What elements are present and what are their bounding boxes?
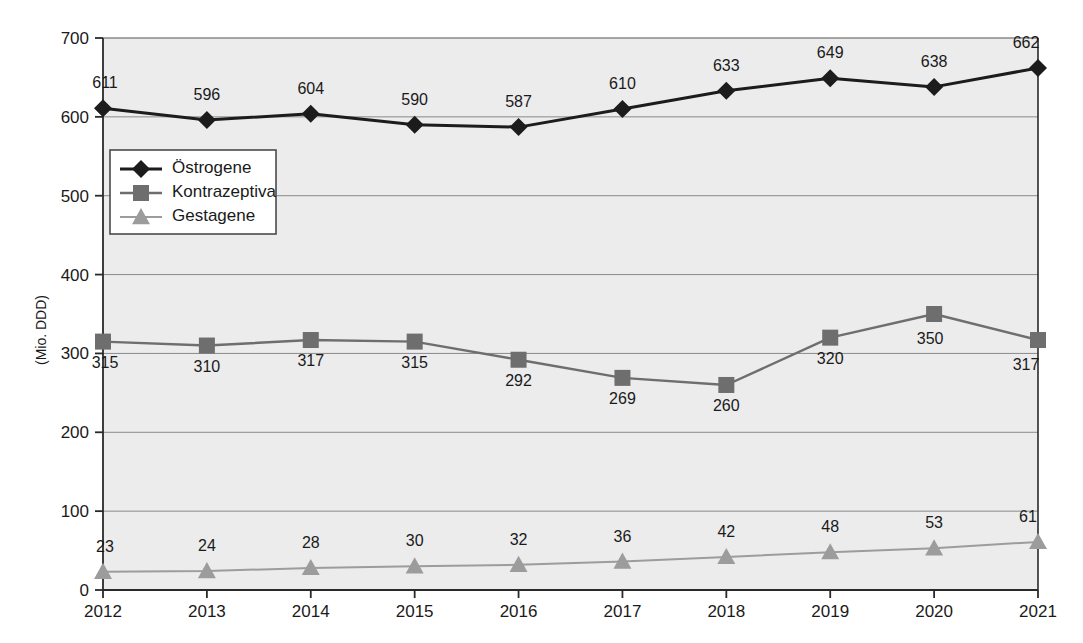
legend-label-2: Gestagene: [172, 206, 255, 225]
y-tick-label-200: 200: [61, 423, 89, 442]
legend-label-0: Östrogene: [172, 158, 251, 177]
data-label-2-3: 30: [406, 532, 424, 549]
marker-square: [1030, 332, 1046, 348]
marker-square: [199, 338, 215, 354]
marker-square: [133, 185, 149, 201]
marker-square: [303, 332, 319, 348]
x-axis: 2012201320142015201620172018201920202021: [84, 590, 1057, 621]
data-label-2-4: 32: [510, 531, 528, 548]
y-tick-label-100: 100: [61, 502, 89, 521]
data-label-1-7: 320: [817, 350, 844, 367]
data-label-0-0: 611: [92, 74, 118, 91]
data-label-0-6: 633: [713, 57, 740, 74]
x-tick-label-2021: 2021: [1019, 602, 1057, 621]
x-tick-label-2017: 2017: [604, 602, 642, 621]
marker-square: [95, 334, 111, 350]
data-label-1-6: 260: [713, 397, 740, 414]
data-label-1-5: 269: [609, 390, 636, 407]
y-axis: 0100200300400500600700: [61, 29, 103, 600]
data-label-1-4: 292: [505, 372, 532, 389]
y-tick-label-600: 600: [61, 108, 89, 127]
data-label-1-2: 317: [297, 352, 324, 369]
data-label-0-5: 610: [609, 75, 636, 92]
x-tick-label-2013: 2013: [188, 602, 226, 621]
data-label-1-0: 315: [92, 354, 119, 371]
plot-background: [103, 38, 1038, 590]
data-label-1-1: 310: [194, 358, 221, 375]
chart-container: 0100200300400500600700201220132014201520…: [0, 0, 1083, 643]
marker-square: [718, 377, 734, 393]
data-label-0-3: 590: [401, 91, 428, 108]
y-axis-title: (Mio. DDD): [33, 295, 49, 365]
data-label-1-3: 315: [401, 354, 428, 371]
x-tick-label-2020: 2020: [915, 602, 953, 621]
data-label-2-1: 24: [198, 537, 216, 554]
x-tick-label-2014: 2014: [292, 602, 330, 621]
marker-square: [511, 352, 527, 368]
x-tick-label-2019: 2019: [811, 602, 849, 621]
marker-square: [926, 306, 942, 322]
data-label-0-8: 638: [921, 53, 948, 70]
legend-item-kontrazeptiva[interactable]: Kontrazeptiva: [120, 182, 276, 201]
marker-square: [822, 330, 838, 346]
x-tick-label-2018: 2018: [707, 602, 745, 621]
data-label-1-9: 317: [1013, 356, 1040, 373]
y-tick-label-300: 300: [61, 344, 89, 363]
legend-item-östrogene[interactable]: Östrogene: [120, 158, 251, 178]
data-label-0-9: 662: [1013, 34, 1040, 51]
data-label-0-7: 649: [817, 44, 844, 61]
x-tick-label-2016: 2016: [500, 602, 538, 621]
data-label-0-4: 587: [505, 93, 532, 110]
marker-square: [614, 370, 630, 386]
data-label-2-8: 53: [925, 514, 943, 531]
x-tick-label-2015: 2015: [396, 602, 434, 621]
x-tick-label-2012: 2012: [84, 602, 122, 621]
data-label-2-2: 28: [302, 534, 320, 551]
data-label-2-5: 36: [614, 528, 632, 545]
data-label-2-9: 61: [1019, 508, 1037, 525]
data-label-2-7: 48: [821, 518, 839, 535]
legend: ÖstrogeneKontrazeptivaGestagene: [110, 150, 276, 234]
y-tick-label-500: 500: [61, 187, 89, 206]
data-label-2-6: 42: [717, 523, 735, 540]
data-label-0-2: 604: [297, 80, 324, 97]
data-label-1-8: 350: [917, 330, 944, 347]
legend-item-gestagene[interactable]: Gestagene: [120, 206, 255, 225]
y-tick-label-700: 700: [61, 29, 89, 48]
line-chart: 0100200300400500600700201220132014201520…: [0, 0, 1083, 643]
y-tick-label-400: 400: [61, 266, 89, 285]
y-tick-label-0: 0: [80, 581, 89, 600]
data-label-2-0: 23: [96, 538, 114, 555]
data-label-0-1: 596: [194, 86, 221, 103]
legend-label-1: Kontrazeptiva: [172, 182, 276, 201]
marker-square: [407, 334, 423, 350]
